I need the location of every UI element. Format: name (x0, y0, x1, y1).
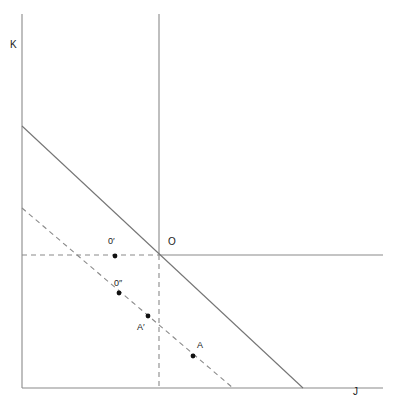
plot-canvas (0, 0, 400, 413)
point-label-a: A (197, 340, 203, 350)
economics-diagram: K J O 0′ 0″ A′ A (0, 0, 400, 413)
k-axis-title: K (10, 39, 17, 50)
data-point-o-double-prime (117, 291, 122, 296)
j-axis-title: J (353, 386, 358, 397)
data-point-a (191, 354, 196, 359)
data-point-a-prime (146, 314, 151, 319)
point-label-a-prime: A′ (137, 322, 145, 332)
data-point-o-prime (113, 254, 118, 259)
point-label-o-double-prime: 0″ (114, 278, 122, 288)
budget-line-dashed (22, 208, 233, 388)
budget-line-solid (22, 126, 303, 388)
origin-label: O (168, 236, 176, 247)
point-label-o-prime: 0′ (108, 236, 115, 246)
